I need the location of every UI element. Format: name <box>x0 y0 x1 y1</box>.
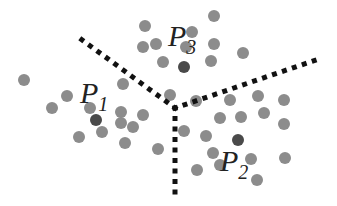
data-point <box>279 152 291 164</box>
data-point <box>200 130 212 142</box>
data-point <box>252 90 264 102</box>
data-point <box>96 126 108 138</box>
data-point <box>119 137 131 149</box>
data-point <box>191 164 203 176</box>
data-point <box>278 118 290 130</box>
data-point <box>178 125 190 137</box>
data-point <box>115 117 127 129</box>
voronoi-diagram: P1P2P3 <box>0 0 337 206</box>
data-point <box>208 38 220 50</box>
data-point <box>139 20 151 32</box>
data-point <box>46 102 58 114</box>
data-point <box>235 111 247 123</box>
data-point <box>237 47 249 59</box>
data-point <box>137 41 149 53</box>
data-point <box>127 121 139 133</box>
boundary-p1-p2 <box>173 106 178 195</box>
data-point <box>205 55 217 67</box>
data-point <box>137 109 149 121</box>
data-point <box>150 38 162 50</box>
data-point <box>251 174 263 186</box>
data-point <box>207 147 219 159</box>
data-point <box>157 56 169 68</box>
data-point <box>214 112 226 124</box>
data-point <box>258 107 270 119</box>
center-point-p1 <box>90 114 102 126</box>
center-point-p3 <box>178 61 190 73</box>
data-point <box>278 94 290 106</box>
data-point <box>18 74 30 86</box>
data-point <box>73 131 85 143</box>
data-point <box>61 90 73 102</box>
data-point <box>224 94 236 106</box>
data-point <box>152 143 164 155</box>
data-point <box>208 10 220 22</box>
data-point <box>115 106 127 118</box>
data-point <box>117 78 129 90</box>
